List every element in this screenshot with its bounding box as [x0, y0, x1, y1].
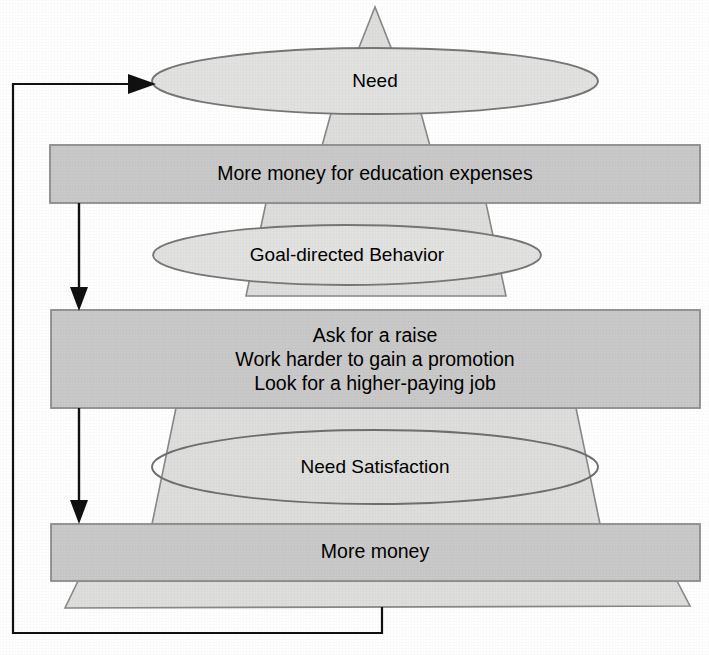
- bar-label-need-example: More money for education expenses: [217, 162, 533, 184]
- bar-label-behavior-example-line3: Look for a higher-paying job: [254, 372, 496, 394]
- flow-arrow-behavior-to-satisfaction: [70, 408, 88, 524]
- motivation-process-diagram: Need Goal-directed Behavior Need Satisfa…: [0, 0, 709, 655]
- bar-label-behavior-example-line1: Ask for a raise: [313, 324, 438, 346]
- pyramid-base-segment: [65, 581, 690, 608]
- stage-label-goal-directed-behavior: Goal-directed Behavior: [250, 244, 445, 265]
- flow-arrow-head-1: [70, 287, 88, 311]
- stage-label-need-satisfaction: Need Satisfaction: [301, 456, 450, 477]
- flow-arrow-need-to-behavior: [70, 203, 88, 311]
- diagram-canvas: Need Goal-directed Behavior Need Satisfa…: [0, 0, 709, 655]
- stage-label-need: Need: [352, 70, 397, 91]
- bar-label-behavior-example-line2: Work harder to gain a promotion: [235, 348, 514, 370]
- bar-label-satisfaction-example: More money: [321, 540, 430, 562]
- feedback-loop-arrow-head: [128, 74, 156, 94]
- flow-arrow-head-2: [70, 500, 88, 524]
